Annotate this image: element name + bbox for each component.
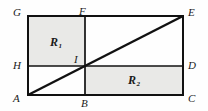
region-label-r2-subscript: 2 xyxy=(137,80,141,88)
region-label-r1-subscript: 1 xyxy=(59,42,63,50)
vertex-label-e: E xyxy=(188,7,195,18)
geometry-canvas xyxy=(0,0,208,111)
region-label-r2-text: R xyxy=(128,73,136,87)
vertex-label-b: B xyxy=(81,98,88,109)
vertex-label-i: I xyxy=(74,54,78,65)
vertex-label-d: D xyxy=(188,60,196,71)
vertex-label-a: A xyxy=(13,93,20,104)
vertex-label-f: F xyxy=(79,6,86,17)
region-label-r1-text: R xyxy=(50,35,58,49)
region-label-r2: R2 xyxy=(128,74,140,88)
region-label-r1: R1 xyxy=(50,36,62,50)
geometry-figure: G F E H I D A B C R1 R2 xyxy=(0,0,208,111)
vertex-label-c: C xyxy=(188,93,195,104)
vertex-label-g: G xyxy=(13,7,21,18)
vertex-label-h: H xyxy=(13,60,21,71)
